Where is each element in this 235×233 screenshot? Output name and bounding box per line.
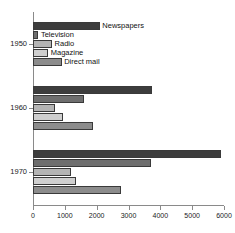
bar-1950-direct-mail — [33, 58, 62, 66]
bar-1950-magazine — [33, 49, 48, 57]
y-tick-label-1960: 1960 — [0, 103, 27, 112]
bar-1960-television — [33, 95, 84, 103]
bar-label-magazine: Magazine — [50, 48, 85, 57]
bar-label-newspapers: Newspapers — [101, 21, 145, 30]
x-tick-label-0: 0 — [18, 211, 48, 220]
bar-label-television: Television — [40, 30, 75, 39]
bar-1960-magazine — [33, 113, 63, 121]
bar-1950-television — [33, 31, 38, 39]
x-tick-6000 — [224, 206, 225, 210]
x-tick-label-3000: 3000 — [114, 211, 144, 220]
x-tick-label-5000: 5000 — [177, 211, 207, 220]
bar-1970-radio — [33, 168, 71, 176]
bar-1960-newspapers — [33, 86, 152, 94]
bar-label-direct-mail: Direct mail — [63, 57, 100, 66]
x-tick-3000 — [129, 206, 130, 210]
bar-label-radio: Radio — [54, 39, 76, 48]
bar-1970-magazine — [33, 177, 76, 185]
bar-1960-radio — [33, 104, 55, 112]
bar-1960-direct-mail — [33, 122, 93, 130]
bar-chart: 0100020003000400050006000 195019601970 N… — [0, 0, 235, 233]
x-tick-1000 — [65, 206, 66, 210]
x-tick-5000 — [192, 206, 193, 210]
x-tick-0 — [33, 206, 34, 210]
bar-1970-direct-mail — [33, 186, 121, 194]
x-tick-label-1000: 1000 — [50, 211, 80, 220]
y-tick-label-1950: 1950 — [0, 39, 27, 48]
x-tick-label-2000: 2000 — [82, 211, 112, 220]
bar-1970-newspapers — [33, 150, 221, 158]
x-tick-label-6000: 6000 — [209, 211, 235, 220]
y-tick-label-1970: 1970 — [0, 167, 27, 176]
x-tick-4000 — [160, 206, 161, 210]
x-tick-label-4000: 4000 — [145, 211, 175, 220]
bar-1970-television — [33, 159, 151, 167]
x-tick-2000 — [97, 206, 98, 210]
